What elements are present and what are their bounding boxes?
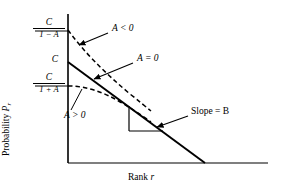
- y-tick-label-middle: C: [46, 55, 64, 65]
- y-tick-lower-numerator: C: [33, 73, 65, 83]
- annotation-a-greater-than-zero-text: A > 0: [64, 110, 86, 120]
- y-axis-title: Probability Pr: [1, 103, 11, 156]
- x-axis-title-prefix: Rank: [128, 172, 150, 182]
- y-tick-lower-denominator: 1 + A: [33, 83, 65, 93]
- annotation-a-equals-zero-text: A = 0: [137, 53, 159, 63]
- x-axis-title-variable: r: [150, 172, 154, 182]
- annotation-a-equals-zero: A = 0: [137, 54, 159, 64]
- y-axis-title-variable: P: [1, 106, 11, 112]
- axes-group: [68, 14, 268, 163]
- y-tick-middle-numerator: C: [46, 55, 64, 65]
- leader-slope: [157, 116, 188, 127]
- leader-a-greater-than-zero: [71, 89, 82, 110]
- y-tick-upper-numerator: C: [33, 18, 65, 28]
- y-axis-title-subscript: r: [5, 103, 13, 106]
- leader-a-less-than-zero: [79, 33, 108, 45]
- y-axis-title-prefix: Probability: [1, 111, 11, 156]
- annotation-slope: Slope = B: [191, 107, 229, 117]
- curve-a-equals-zero: [68, 62, 205, 163]
- x-axis-title: Rank r: [128, 172, 154, 182]
- y-tick-label-upper: C 1 − A: [33, 18, 65, 39]
- annotation-a-greater-than-zero: A > 0: [64, 111, 86, 121]
- leader-a-equals-zero: [94, 63, 133, 79]
- annotation-slope-text: Slope = B: [191, 106, 229, 116]
- annotation-a-less-than-zero: A < 0: [112, 24, 134, 34]
- y-tick-label-lower: C 1 + A: [33, 73, 65, 94]
- annotation-a-less-than-zero-text: A < 0: [112, 23, 134, 33]
- y-tick-upper-denominator: 1 − A: [33, 28, 65, 38]
- figure-container: C 1 − A C C 1 + A A < 0 A = 0 A > 0 Slop…: [0, 0, 283, 192]
